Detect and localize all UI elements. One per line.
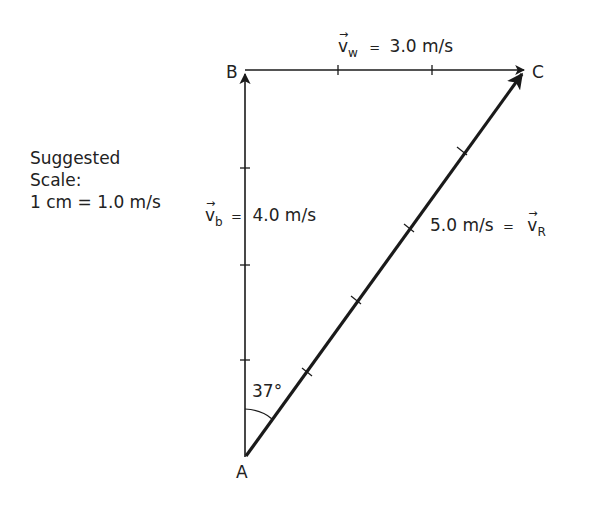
- vector-triangle-graphic: [0, 0, 591, 509]
- scale-note: Suggested Scale: 1 cm = 1.0 m/s: [30, 150, 161, 211]
- angle-label: 37°: [252, 383, 282, 400]
- equals-sign: =: [231, 209, 242, 224]
- water-vector-value: 3.0 m/s: [390, 36, 454, 56]
- vector-arrow-icon: →: [528, 208, 537, 219]
- angle-arc: [245, 409, 272, 419]
- scale-note-line-3: 1 cm = 1.0 m/s: [30, 194, 161, 211]
- resultant-vector-symbol: →vR: [527, 217, 545, 234]
- equals-sign: =: [503, 219, 514, 234]
- water-vector-symbol: →vw: [338, 38, 358, 55]
- resultant-vector-value: 5.0 m/s: [430, 215, 494, 235]
- boat-vector-symbol: →vb: [205, 207, 223, 224]
- resultant-vector-label: 5.0 m/s = →vR: [430, 217, 546, 234]
- point-label-c: C: [532, 64, 544, 81]
- point-label-b: B: [226, 64, 238, 81]
- water-vector-label: →vw = 3.0 m/s: [338, 38, 453, 55]
- boat-vector-label: →vb = 4.0 m/s: [205, 207, 316, 224]
- scale-note-line-2: Scale:: [30, 172, 161, 189]
- vector-diagram: B C A →vw = 3.0 m/s →vb = 4.0 m/s 5.0 m/…: [0, 0, 591, 509]
- boat-vector-value: 4.0 m/s: [252, 205, 316, 225]
- scale-note-line-1: Suggested: [30, 150, 161, 167]
- resultant-velocity-vector: [246, 74, 522, 456]
- vector-arrow-icon: →: [339, 29, 348, 40]
- vector-arrow-icon: →: [206, 198, 215, 209]
- boat-velocity-vector: [240, 74, 250, 457]
- point-label-a: A: [236, 464, 248, 481]
- water-velocity-vector: [245, 65, 524, 75]
- equals-sign: =: [369, 40, 380, 55]
